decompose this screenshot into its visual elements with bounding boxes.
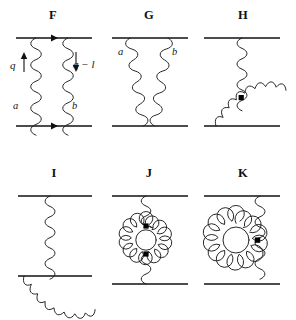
three-gluon-vertex [239,95,244,100]
gluon-b-crossed [150,38,172,126]
diagram-I [6,188,102,300]
color-index-label-a: a [118,46,123,58]
diagram-K [196,188,288,292]
panel-label-F: F [41,8,65,22]
color-index-label-a: a [13,100,18,112]
gluon-tadpole-loop [223,227,249,253]
diagram-H [196,30,288,134]
panel-label-I: I [42,166,66,180]
gluon-vertical [45,196,55,279]
panel-label-G: G [137,8,161,22]
gluon-a [31,38,42,135]
gluon-loop-coils [119,212,172,265]
panel-label-K: K [231,166,255,180]
color-index-label-b: b [72,100,77,112]
gluon-a-crossed [126,38,148,126]
diagram-F [6,30,102,134]
fermion-arrow-top [51,35,58,42]
momentum-label-q-minus-l: q − l [73,58,94,70]
gluon-tadpole-vertex [255,237,260,242]
panel-label-J: J [137,166,161,180]
gluon-stub-upper [141,196,151,226]
gluon-arc [215,82,286,126]
fermion-arrow-bottom [51,123,58,130]
gluon-b [63,38,74,135]
gluon-vertex-top [143,223,148,228]
panel-label-H: H [231,8,255,22]
gluon-vertex-bottom [143,251,148,256]
diagram-J [104,188,196,292]
momentum-label-q: q [10,59,16,71]
feynman-diagram-figure: F q a q − l b G [0,0,296,320]
momentum-arrowhead-up [21,52,27,59]
gluon-arc-below [23,276,95,318]
color-index-label-b: b [172,46,177,58]
